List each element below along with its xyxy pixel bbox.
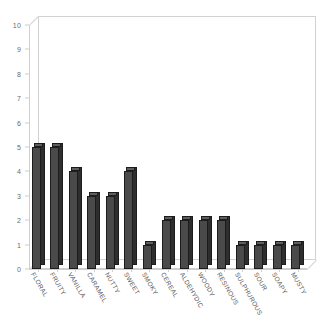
x-axis-tick-mark <box>131 269 132 272</box>
bar <box>87 192 96 269</box>
bar <box>254 241 263 269</box>
bar-top-face <box>71 167 80 171</box>
bar-front-face <box>124 171 133 269</box>
bar-side-face <box>41 143 45 265</box>
bar-front-face <box>50 147 59 269</box>
chart-depth-edge-bottom-right <box>307 260 317 270</box>
y-axis-tick-label: 4 <box>17 168 21 175</box>
bar-front-face <box>32 147 41 269</box>
bar-top-face <box>164 216 173 220</box>
bar-top-face <box>145 241 154 245</box>
x-axis-category-label: FLORAL <box>30 271 50 298</box>
y-axis-tick-label: 0 <box>17 266 21 273</box>
bar <box>124 167 133 269</box>
x-axis-tick-mark <box>224 269 225 272</box>
bar-top-face <box>108 192 117 196</box>
bar-front-face <box>162 220 171 269</box>
bars-layer <box>29 25 307 269</box>
x-axis-category-label: WOODY <box>197 271 216 298</box>
x-axis-tick-mark <box>279 269 280 272</box>
x-axis-tick-mark <box>149 269 150 272</box>
bar-side-face <box>59 143 63 265</box>
bar <box>32 143 41 269</box>
bar-front-face <box>180 220 189 269</box>
bar-side-face <box>171 216 175 265</box>
bar-side-face <box>133 167 137 265</box>
x-axis-tick-mark <box>187 269 188 272</box>
bar-top-face <box>34 143 43 147</box>
bar-front-face <box>236 245 245 269</box>
bar-front-face <box>87 196 96 269</box>
x-axis-category-label: CEREAL <box>160 271 180 299</box>
x-axis-category-label: NUTTY <box>104 271 122 295</box>
x-axis-category-label: SWEET <box>123 271 141 296</box>
bar-top-face <box>52 143 61 147</box>
bar-front-face <box>69 171 78 269</box>
bar-front-face <box>106 196 115 269</box>
bar-top-face <box>201 216 210 220</box>
x-axis-category-labels: FLORALFRUITYVANILLACARAMELNUTTYSWEETSMOK… <box>29 271 319 326</box>
bar <box>236 241 245 269</box>
bar-top-face <box>219 216 228 220</box>
x-axis-tick-mark <box>75 269 76 272</box>
bar <box>50 143 59 269</box>
bar-front-face <box>217 220 226 269</box>
x-axis-category-label: MUSTY <box>290 271 308 296</box>
bar <box>291 241 300 269</box>
y-axis: 109876543210 <box>0 25 29 269</box>
y-axis-tick-label: 6 <box>17 119 21 126</box>
bar-front-face <box>199 220 208 269</box>
bar <box>217 216 226 269</box>
bar <box>273 241 282 269</box>
x-axis-tick-mark <box>205 269 206 272</box>
x-axis-tick-mark <box>242 269 243 272</box>
bar <box>199 216 208 269</box>
x-axis-tick-mark <box>38 269 39 272</box>
y-axis-tick-label: 10 <box>13 22 21 29</box>
bar <box>143 241 152 269</box>
bar <box>180 216 189 269</box>
y-axis-tick-label: 2 <box>17 217 21 224</box>
y-axis-tick-label: 7 <box>17 95 21 102</box>
bar-side-face <box>226 216 230 265</box>
bar-top-face <box>293 241 302 245</box>
bar-top-face <box>275 241 284 245</box>
bar-chart-figure: 109876543210 FLORALFRUITYVANILLACARAMELN… <box>0 0 329 328</box>
bar-side-face <box>208 216 212 265</box>
x-axis-tick-mark <box>57 269 58 272</box>
bar-side-face <box>96 192 100 265</box>
x-axis-category-label: SMOKY <box>141 271 160 296</box>
bar <box>106 192 115 269</box>
bar-top-face <box>89 192 98 196</box>
y-axis-tick-label: 1 <box>17 241 21 248</box>
plot-area <box>29 25 307 269</box>
bar-front-face <box>291 245 300 269</box>
bar-top-face <box>238 241 247 245</box>
bar-side-face <box>189 216 193 265</box>
bar-front-face <box>143 245 152 269</box>
y-axis-tick-label: 9 <box>17 46 21 53</box>
x-axis-tick-mark <box>168 269 169 272</box>
bar <box>69 167 78 269</box>
bar-front-face <box>254 245 263 269</box>
y-axis-tick-label: 8 <box>17 70 21 77</box>
x-axis-category-label: SOUR <box>253 271 269 292</box>
y-axis-tick-label: 5 <box>17 144 21 151</box>
x-axis-tick-mark <box>261 269 262 272</box>
bar-top-face <box>256 241 265 245</box>
bar-top-face <box>182 216 191 220</box>
bar-front-face <box>273 245 282 269</box>
bar-top-face <box>126 167 135 171</box>
bar-side-face <box>115 192 119 265</box>
x-axis-tick-mark <box>112 269 113 272</box>
x-axis-category-label: VANILLA <box>67 271 87 299</box>
bar <box>162 216 171 269</box>
x-axis-tick-mark <box>94 269 95 272</box>
y-axis-tick-label: 3 <box>17 192 21 199</box>
x-axis-category-label: SOAPY <box>271 271 289 295</box>
bar-side-face <box>78 167 82 265</box>
x-axis-category-label: FRUITY <box>49 271 68 296</box>
x-axis-tick-mark <box>298 269 299 272</box>
